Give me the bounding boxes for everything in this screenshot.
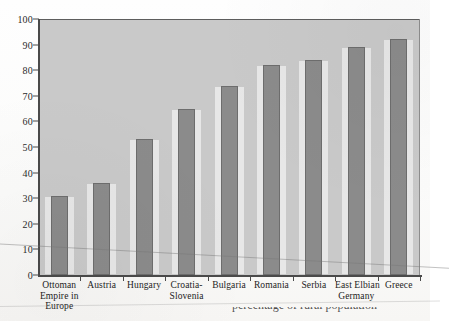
y-tick-label-30: 30 <box>3 193 33 204</box>
y-tick-mark-90 <box>33 44 39 45</box>
x-axis-line <box>38 275 422 277</box>
y-tick-mark-60 <box>33 121 39 122</box>
y-tick-label-90: 90 <box>3 39 33 50</box>
x-label-line: East Elbian <box>335 280 377 291</box>
x-tick-mark-8 <box>420 276 421 281</box>
x-label-greece: Greece <box>378 280 420 291</box>
x-label-bulgaria: Bulgaria <box>208 280 250 291</box>
y-tick-mark-0 <box>33 275 39 276</box>
y-tick-label-60: 60 <box>3 116 33 127</box>
x-label-line: Empire in <box>38 291 80 302</box>
x-label-line: Greece <box>378 280 420 291</box>
x-label-line: Europe <box>38 301 80 312</box>
bar-greece <box>390 39 407 275</box>
x-label-east-elbian-germany: East ElbianGermany <box>335 280 377 301</box>
x-label-line: Serbia <box>293 280 335 291</box>
y-axis-line <box>38 19 40 276</box>
x-label-serbia: Serbia <box>293 280 335 291</box>
x-label-romania: Romania <box>250 280 292 291</box>
x-label-hungary: Hungary <box>123 280 165 291</box>
y-tick-label-10: 10 <box>3 244 33 255</box>
y-tick-label-80: 80 <box>3 65 33 76</box>
plot-right-border <box>419 19 420 276</box>
bar-ottoman-empire-in-europe <box>51 196 68 275</box>
y-tick-label-0: 0 <box>3 270 33 281</box>
y-tick-label-20: 20 <box>3 218 33 229</box>
x-label-croatia-slovenia: Croatia-Slovenia <box>165 280 207 301</box>
bar-croatia-slovenia <box>178 109 195 275</box>
y-tick-mark-50 <box>33 147 39 148</box>
y-tick-mark-30 <box>33 198 39 199</box>
x-label-line: Croatia- <box>165 280 207 291</box>
bar-bulgaria <box>221 86 238 275</box>
x-label-ottoman-empire-in-europe: OttomanEmpire inEurope <box>38 280 80 312</box>
x-label-austria: Austria <box>80 280 122 291</box>
bar-hungary <box>136 139 153 275</box>
y-tick-mark-20 <box>33 223 39 224</box>
y-axis-tick-labels: 0102030405060708090100 <box>0 0 33 321</box>
bar-serbia <box>305 60 322 275</box>
x-label-line: Austria <box>80 280 122 291</box>
x-label-line: Hungary <box>123 280 165 291</box>
y-tick-mark-80 <box>33 70 39 71</box>
caption-text: percentage of rural population <box>232 307 422 313</box>
x-label-line: Bulgaria <box>208 280 250 291</box>
bar-austria <box>93 183 110 275</box>
y-tick-mark-10 <box>33 249 39 250</box>
caption-partial-text: percentage of rural population <box>232 307 422 320</box>
y-tick-label-50: 50 <box>3 142 33 153</box>
y-tick-mark-40 <box>33 172 39 173</box>
x-label-line: Germany <box>335 291 377 302</box>
y-tick-label-70: 70 <box>3 90 33 101</box>
y-tick-mark-70 <box>33 95 39 96</box>
y-tick-label-100: 100 <box>3 14 33 25</box>
bar-romania <box>263 65 280 275</box>
x-label-line: Slovenia <box>165 291 207 302</box>
y-tick-mark-100 <box>33 19 39 20</box>
bar-east-elbian-germany <box>348 47 365 275</box>
x-label-line: Romania <box>250 280 292 291</box>
y-tick-label-40: 40 <box>3 167 33 178</box>
x-label-line: Ottoman <box>38 280 80 291</box>
